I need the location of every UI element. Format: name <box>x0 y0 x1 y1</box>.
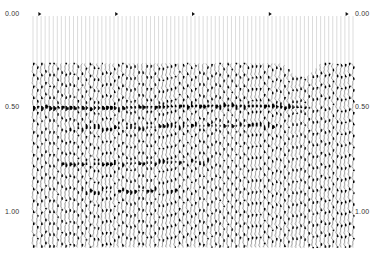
time-label-left-050: 0.50 <box>5 103 19 110</box>
time-label-right-100: 1.00 <box>355 208 369 215</box>
seismic-section-plot <box>0 0 377 262</box>
time-label-left-100: 1.00 <box>5 208 19 215</box>
time-label-left-0: 0.00 <box>5 10 19 17</box>
wiggle-traces <box>32 16 355 248</box>
shot-markers <box>38 12 348 16</box>
time-label-right-050: 0.50 <box>355 103 369 110</box>
time-label-right-0: 0.00 <box>355 10 369 17</box>
